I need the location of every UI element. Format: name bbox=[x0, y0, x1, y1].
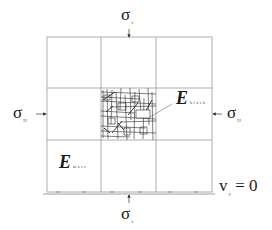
sigma-subscript: H bbox=[23, 118, 27, 123]
sigma-v-bottom-label: σv bbox=[121, 205, 134, 224]
fractured-block bbox=[101, 88, 156, 140]
sigma-subscript: v bbox=[131, 219, 134, 224]
sigma-symbol: σ bbox=[121, 5, 130, 24]
e-block-label: Eblock bbox=[176, 89, 206, 107]
e-subscript: mass bbox=[73, 164, 87, 169]
boundary-condition-label: vy = 0 bbox=[219, 177, 258, 196]
e-subscript: block bbox=[190, 100, 206, 105]
sigma-v-top-label: σv bbox=[121, 6, 134, 25]
e-symbol: E bbox=[176, 88, 188, 108]
sigma-h-left-label: σH bbox=[13, 104, 27, 123]
sigma-symbol: σ bbox=[227, 103, 236, 122]
velocity-subscript: y bbox=[229, 191, 232, 196]
sigma-symbol: σ bbox=[121, 204, 130, 223]
sigma-symbol: σ bbox=[13, 103, 22, 122]
sigma-subscript: v bbox=[131, 20, 134, 25]
equation-text: = 0 bbox=[235, 176, 257, 195]
sigma-h-right-label: σH bbox=[227, 104, 241, 123]
sigma-subscript: H bbox=[237, 118, 241, 123]
e-mass-label: Emass bbox=[59, 153, 87, 171]
e-symbol: E bbox=[59, 152, 71, 172]
velocity-symbol: v bbox=[219, 176, 228, 195]
